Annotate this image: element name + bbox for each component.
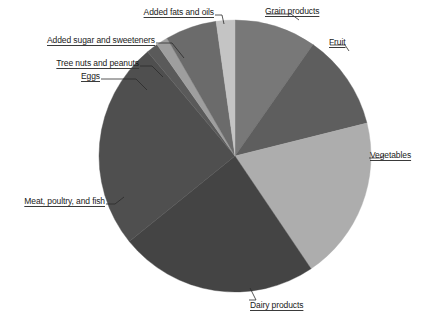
pie-chart: Grain products Fruit Vegetables Dairy pr…: [0, 0, 430, 320]
pie-label-added-sugar-sweeteners: Added sugar and sweeteners: [47, 35, 155, 45]
pie-label-added-fats-oils: Added fats and oils: [144, 7, 214, 17]
pie-label-tree-nuts-peanuts: Tree nuts and peanuts: [56, 58, 139, 68]
pie-label-fruit: Fruit: [329, 37, 346, 47]
pie-label-vegetables: Vegetables: [370, 150, 411, 160]
pie-label-grain-products: Grain products: [265, 6, 319, 16]
pie-slice-group: [99, 20, 371, 292]
pie-label-meat-poultry-fish: Meat, poultry, and fish: [24, 196, 105, 206]
pie-label-eggs: Eggs: [81, 71, 100, 81]
pie-label-dairy-products: Dairy products: [250, 300, 303, 310]
pie-chart-canvas: [0, 0, 430, 320]
